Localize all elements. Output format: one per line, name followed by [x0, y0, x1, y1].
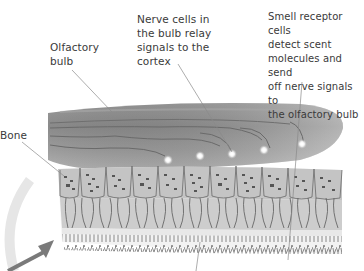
label-receptor-cells: Smell receptor cells detect scent molecu…	[268, 10, 364, 122]
label-nerve-cells: Nerve cells in the bulb relay signals to…	[137, 12, 211, 68]
label-bone: Bone	[0, 128, 27, 142]
bone-layer	[58, 167, 342, 254]
background-arc	[10, 180, 30, 271]
label-olfactory-bulb: Olfactory bulb	[50, 40, 99, 68]
